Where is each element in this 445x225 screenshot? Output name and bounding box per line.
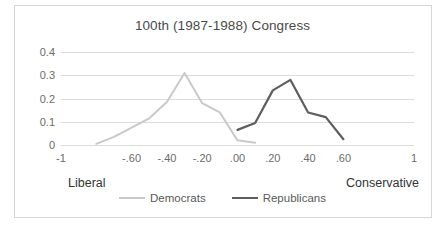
series-lines [61,52,414,145]
y-axis-tick-label: 0 [21,139,55,151]
legend-item[interactable]: Democrats [119,192,206,204]
y-axis-tick-labels: 0.40.30.20.10 [21,52,55,145]
y-axis-tick-label: 0.3 [21,69,55,81]
x-axis-tick-label: .40 [300,152,315,164]
axis-label-conservative: Conservative [346,176,419,190]
chart-title: 100th (1987-1988) Congress [0,18,445,33]
x-axis-tick-label: -.40 [157,152,176,164]
x-axis-tick-label: 1 [411,152,417,164]
x-axis-tick-label: -.60 [122,152,141,164]
legend-swatch-icon [232,197,258,199]
plot-area [61,52,414,145]
x-axis-tick-label: -1 [56,152,66,164]
legend-swatch-icon [119,197,145,199]
y-axis-tick-label: 0.1 [21,116,55,128]
legend-label: Democrats [150,192,206,204]
x-axis-tick-label: .00 [230,152,245,164]
legend-item[interactable]: Republicans [232,192,326,204]
series-line-republicans [238,80,344,139]
y-axis-tick-label: 0.4 [21,46,55,58]
x-axis-tick-labels: -1-.60-.40-.20.00.20.40.601 [61,152,414,168]
x-axis-tick-label: .60 [336,152,351,164]
gridline [61,145,414,146]
chart-legend: DemocratsRepublicans [0,192,445,204]
axis-label-liberal: Liberal [68,176,106,190]
y-axis-tick-label: 0.2 [21,93,55,105]
legend-label: Republicans [263,192,326,204]
x-axis-tick-label: -.20 [193,152,212,164]
x-axis-tick-label: .20 [265,152,280,164]
series-line-democrats [96,73,255,144]
chart-container: 100th (1987-1988) Congress 0.40.30.20.10… [0,0,445,225]
